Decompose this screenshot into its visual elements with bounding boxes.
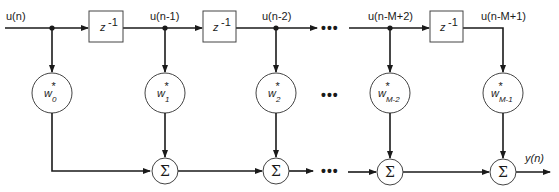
delay-label: z xyxy=(212,21,219,33)
tap-label-2: u(n-2) xyxy=(262,10,291,22)
input-signal-label: u(n) xyxy=(6,10,26,22)
tap-label-m-2: u(n-M+2) xyxy=(368,10,413,22)
tap-label-m-1: u(n-M+1) xyxy=(481,10,526,22)
delay-box-1: z -1 xyxy=(89,11,123,42)
delay-label: z xyxy=(99,21,106,33)
svg-text:*: * xyxy=(51,80,56,92)
svg-text:*: * xyxy=(498,80,503,92)
weight-1: w1 * xyxy=(145,73,185,113)
svg-text:*: * xyxy=(164,80,169,92)
summer-1: Σ xyxy=(152,158,178,184)
summer-final: Σ xyxy=(490,159,516,185)
delay-box-2: z -1 xyxy=(203,11,236,42)
diagram-svg: z -1 z -1 z -1 u(n) u(n-1) u(n-2) u(n-M+… xyxy=(0,0,559,192)
delay-line xyxy=(5,25,503,72)
ellipsis-bottom: ••• xyxy=(321,163,339,179)
weight-m-1: wM-1 * xyxy=(483,73,523,113)
ellipsis-top: ••• xyxy=(321,20,339,36)
ellipsis-middle: ••• xyxy=(321,87,339,103)
sigma-symbol: Σ xyxy=(385,164,395,180)
sigma-symbol: Σ xyxy=(498,164,508,180)
weight-0: w0 * xyxy=(32,73,72,113)
delay-exponent: -1 xyxy=(448,16,458,28)
svg-text:*: * xyxy=(275,80,280,92)
delay-label: z xyxy=(439,21,446,33)
weight-0-to-sum-1 xyxy=(52,113,150,171)
sigma-symbol: Σ xyxy=(271,163,281,179)
delay-exponent: -1 xyxy=(108,16,118,28)
output-signal-label: y(n) xyxy=(524,152,544,164)
svg-text:*: * xyxy=(385,80,390,92)
weight-2: w2 * xyxy=(256,73,296,113)
tap-label-1: u(n-1) xyxy=(150,10,179,22)
summer-2: Σ xyxy=(263,158,289,184)
fir-filter-diagram: z -1 z -1 z -1 u(n) u(n-1) u(n-2) u(n-M+… xyxy=(0,0,559,192)
delay-exponent: -1 xyxy=(221,16,231,28)
summer-m-2: Σ xyxy=(377,159,403,185)
sigma-symbol: Σ xyxy=(160,163,170,179)
weight-m-2: wM-2 * xyxy=(370,73,410,113)
delay-3-to-weight-last xyxy=(463,28,503,72)
delay-box-3: z -1 xyxy=(430,11,463,42)
